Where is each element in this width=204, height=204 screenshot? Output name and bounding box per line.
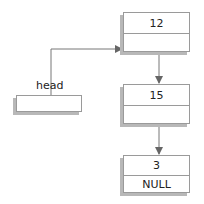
node-next bbox=[124, 106, 189, 124]
node-value: 15 bbox=[124, 85, 189, 105]
node-next bbox=[124, 34, 189, 52]
node-next-null: NULL bbox=[124, 176, 189, 193]
head-pointer-box bbox=[16, 95, 82, 112]
node-value: 3 bbox=[124, 156, 189, 175]
head-label: head bbox=[36, 79, 63, 92]
list-node-3: 3 NULL bbox=[123, 155, 190, 193]
node-value: 12 bbox=[124, 13, 189, 33]
list-node-2: 15 bbox=[123, 84, 190, 124]
list-node-1: 12 bbox=[123, 12, 190, 52]
